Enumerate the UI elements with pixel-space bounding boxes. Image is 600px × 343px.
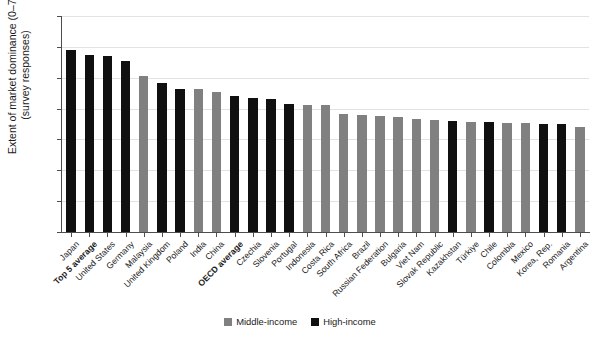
bar-column — [539, 16, 548, 232]
bar — [212, 92, 221, 232]
x-axis-tick-mark — [126, 233, 127, 237]
x-axis-tick-mark — [289, 233, 290, 237]
bar-column — [194, 16, 203, 232]
bar — [357, 115, 366, 232]
bar — [502, 123, 511, 232]
x-axis-tick-mark — [71, 233, 72, 237]
bar-column — [212, 16, 221, 232]
bar — [575, 127, 584, 232]
bar-column — [466, 16, 475, 232]
x-axis-tick-mark — [162, 233, 163, 237]
bar — [375, 116, 384, 232]
bar-series — [62, 16, 589, 232]
bar-column — [121, 16, 130, 232]
bar-column — [103, 16, 112, 232]
y-axis-title-line1: Extent of market dominance (0–7) — [6, 0, 18, 154]
bar — [339, 114, 348, 232]
legend-item-high[interactable]: High-income — [311, 316, 376, 327]
x-axis-tick-mark — [562, 233, 563, 237]
x-axis-tick-mark — [544, 233, 545, 237]
legend-swatch-icon — [224, 318, 232, 326]
x-axis-tick-mark — [362, 233, 363, 237]
x-axis-tick-mark — [216, 233, 217, 237]
x-axis-tick-mark — [235, 233, 236, 237]
x-axis-tick-mark — [271, 233, 272, 237]
bar-column — [321, 16, 330, 232]
bar-column — [303, 16, 312, 232]
x-axis-tick-mark — [398, 233, 399, 237]
bar-column — [393, 16, 402, 232]
bar — [430, 120, 439, 232]
bar-column — [412, 16, 421, 232]
bar-column — [157, 16, 166, 232]
legend-swatch-icon — [311, 318, 319, 326]
bar — [85, 55, 94, 232]
x-axis-tick-mark — [525, 233, 526, 237]
bar — [303, 105, 312, 232]
x-axis-tick-mark — [435, 233, 436, 237]
bar — [66, 50, 75, 232]
bar — [539, 124, 548, 232]
bar-column — [284, 16, 293, 232]
bar — [121, 61, 130, 232]
bar — [412, 119, 421, 232]
bar-column — [430, 16, 439, 232]
x-axis-tick-mark — [144, 233, 145, 237]
x-axis-tick-mark — [453, 233, 454, 237]
bar-column — [557, 16, 566, 232]
bar — [103, 56, 112, 232]
bar — [175, 89, 184, 232]
bar — [466, 122, 475, 232]
bar-column — [357, 16, 366, 232]
x-axis-tick-mark — [326, 233, 327, 237]
bar — [284, 104, 293, 232]
bar — [393, 117, 402, 232]
bar-column — [575, 16, 584, 232]
bar — [266, 99, 275, 232]
bar — [194, 89, 203, 232]
x-axis-tick-mark — [307, 233, 308, 237]
bar-column — [448, 16, 457, 232]
x-axis-tick-mark — [507, 233, 508, 237]
bar — [484, 122, 493, 232]
bar-column — [85, 16, 94, 232]
x-axis-tick-mark — [253, 233, 254, 237]
bar-column — [339, 16, 348, 232]
x-axis-tick-mark — [416, 233, 417, 237]
y-axis-title: Extent of market dominance (0–7)(survey … — [6, 0, 32, 190]
bar — [557, 124, 566, 232]
x-axis-tick-mark — [89, 233, 90, 237]
bar — [521, 123, 530, 232]
bar-column — [139, 16, 148, 232]
bar-column — [175, 16, 184, 232]
bar — [248, 98, 257, 232]
bar-column — [502, 16, 511, 232]
bar — [139, 76, 148, 232]
bar-column — [484, 16, 493, 232]
market-dominance-bar-chart: Extent of market dominance (0–7)(survey … — [0, 0, 600, 343]
bar — [448, 121, 457, 232]
bar-column — [375, 16, 384, 232]
bar-column — [248, 16, 257, 232]
legend-item-middle[interactable]: Middle-income — [224, 316, 297, 327]
x-axis-tick-mark — [180, 233, 181, 237]
x-axis-tick-mark — [198, 233, 199, 237]
x-axis-tick-mark — [580, 233, 581, 237]
bar — [230, 96, 239, 232]
bar — [321, 105, 330, 232]
x-axis-tick-mark — [489, 233, 490, 237]
bar-column — [66, 16, 75, 232]
legend-label: Middle-income — [236, 316, 297, 327]
x-axis-tick-mark — [107, 233, 108, 237]
bar-column — [230, 16, 239, 232]
y-axis-title-line2: (survey responses) — [19, 30, 31, 119]
x-axis-tick-mark — [344, 233, 345, 237]
legend-label: High-income — [323, 316, 376, 327]
x-axis-tick-mark — [471, 233, 472, 237]
bar — [157, 83, 166, 232]
legend: Middle-incomeHigh-income — [0, 316, 600, 327]
bar-column — [521, 16, 530, 232]
x-axis-tick-mark — [380, 233, 381, 237]
bar-column — [266, 16, 275, 232]
